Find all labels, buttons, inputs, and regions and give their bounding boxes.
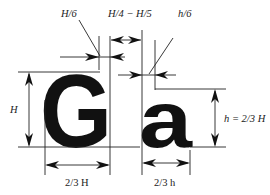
glyph-uppercase-g: G — [40, 54, 112, 169]
letter-proportion-diagram: G a H H/6 H/4 − H/5 h/6 — [0, 0, 270, 195]
glyph-lowercase-a: a — [139, 75, 193, 164]
gap-label: H/4 − H/5 — [107, 8, 152, 19]
stroke-uppercase-label: H/6 — [60, 8, 78, 19]
x-height-label: h = 2/3 H — [224, 113, 267, 124]
cap-height-label: H — [9, 104, 19, 115]
leader-line — [149, 38, 173, 74]
stroke-lowercase-label: h/6 — [178, 8, 192, 19]
diagram-canvas: G a H H/6 H/4 − H/5 h/6 — [0, 0, 270, 195]
width-lowercase-dimension: 2/3 h — [142, 159, 190, 188]
width-uppercase-label: 2/3 H — [65, 177, 89, 188]
leader-line — [79, 20, 100, 56]
width-lowercase-label: 2/3 h — [154, 177, 176, 188]
width-uppercase-dimension: 2/3 H — [45, 161, 110, 188]
